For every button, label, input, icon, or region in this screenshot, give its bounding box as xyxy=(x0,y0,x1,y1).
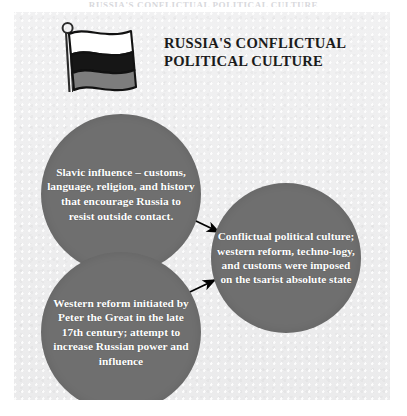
western-reform-node[interactable]: Western reform initiated by Peter the Gr… xyxy=(41,252,201,412)
diagram-body: Slavic influence – customs, language, re… xyxy=(14,104,390,400)
slavic-influence-node[interactable]: Slavic influence – customs, language, re… xyxy=(41,114,201,274)
conflictual-culture-node-text: Conflictual political culture; western r… xyxy=(211,229,361,287)
western-reform-node-text: Western reform initiated by Peter the Gr… xyxy=(41,296,201,369)
conflictual-culture-node[interactable]: Conflictual political culture; western r… xyxy=(211,183,361,333)
slavic-influence-node-text: Slavic influence – customs, language, re… xyxy=(41,165,201,223)
page-bottom-margin xyxy=(0,400,407,416)
figure-title-line-2: POLITICAL CULTURE xyxy=(164,52,389,70)
russian-flag-icon xyxy=(55,18,139,96)
figure-title: RUSSIA'S CONFLICTUAL POLITICAL CULTURE xyxy=(164,34,389,70)
figure-page: RUSSIA'S CONFLICTUAL POLITICAL CULTURE xyxy=(0,0,407,416)
running-head: RUSSIA'S CONFLICTUAL POLITICAL CULTURE xyxy=(0,0,407,7)
figure-header: RUSSIA'S CONFLICTUAL POLITICAL CULTURE xyxy=(14,12,390,104)
scanned-figure-panel: RUSSIA'S CONFLICTUAL POLITICAL CULTURE S… xyxy=(14,12,390,400)
figure-title-line-1: RUSSIA'S CONFLICTUAL xyxy=(164,34,389,52)
